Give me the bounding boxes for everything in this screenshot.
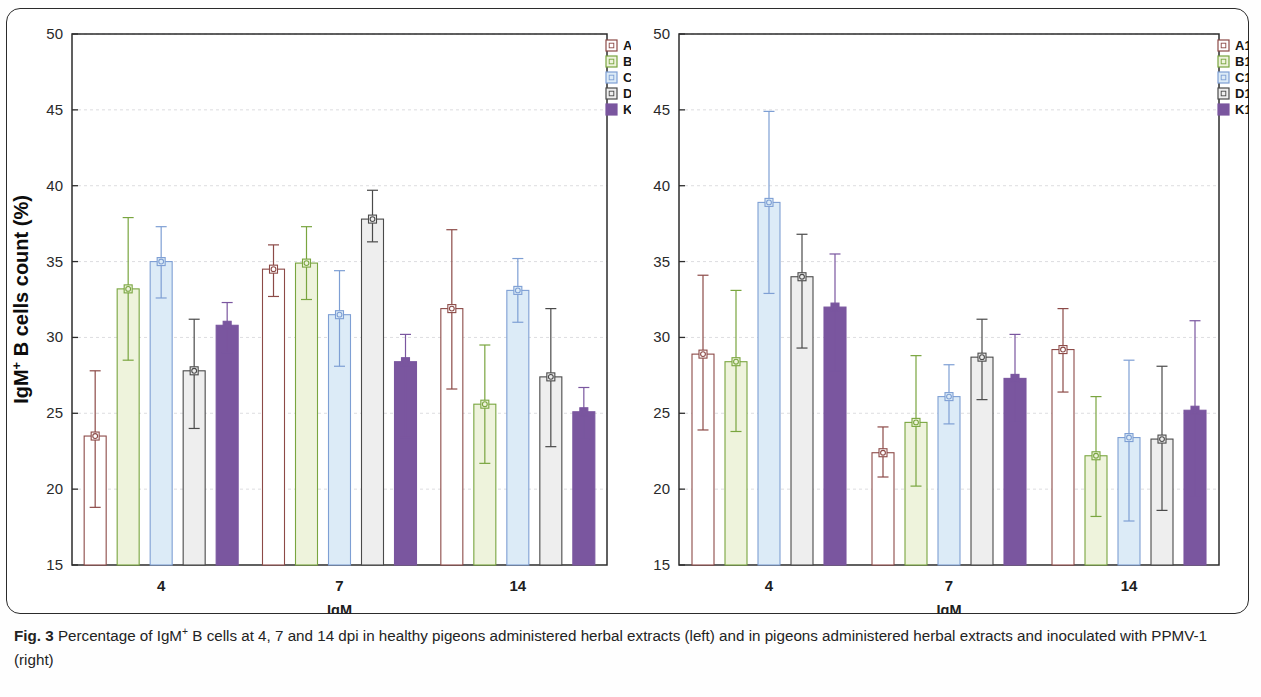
x-axis-title: IgM — [327, 602, 352, 614]
bar-A-7[interactable] — [263, 245, 285, 565]
bar-C1-7[interactable] — [938, 365, 960, 565]
legend-label: D1 — [1235, 86, 1249, 101]
mean-marker — [303, 259, 311, 267]
bar-D-4[interactable] — [183, 319, 205, 565]
legend-label: B — [623, 54, 631, 69]
bar-K-7[interactable] — [395, 334, 417, 565]
bar-B1-7[interactable] — [905, 356, 927, 565]
mean-marker — [699, 350, 707, 358]
legend-swatch — [606, 40, 617, 51]
mean-marker — [798, 273, 806, 281]
bar-A-4[interactable] — [84, 371, 106, 565]
bar-D-7[interactable] — [362, 190, 384, 565]
legend-label: C1 — [1235, 70, 1249, 85]
figure-caption: Fig. 3 Percentage of IgM+ B cells at 4, … — [14, 620, 1249, 672]
y-tick-label: 50 — [46, 25, 63, 42]
legend-label: A — [623, 38, 631, 53]
legend-swatch — [606, 72, 617, 83]
bar-A1-14[interactable] — [1052, 309, 1074, 565]
x-category-label: 7 — [335, 577, 343, 594]
y-tick-label: 20 — [46, 480, 63, 497]
chart-svg-left: 1520253035404550IgM+ B cells count (%)47… — [6, 8, 631, 614]
figure-label: Fig. 3 — [14, 627, 54, 644]
legend-item-K[interactable]: K — [606, 102, 631, 117]
bar-C1-14[interactable] — [1118, 360, 1140, 565]
legend-item-C[interactable]: C — [606, 70, 631, 85]
bar-A-14[interactable] — [441, 230, 463, 565]
mean-marker — [879, 449, 887, 457]
legend-item-D1[interactable]: D1 — [1218, 86, 1249, 101]
bar-C-14[interactable] — [507, 259, 529, 565]
bar-D1-14[interactable] — [1151, 366, 1173, 565]
chart-svg-right: 15202530354045504714IgMA1B1C1D1K1 — [631, 8, 1249, 614]
bar-rect[interactable] — [296, 263, 318, 565]
bar-group-14 — [441, 230, 595, 565]
bar-D1-4[interactable] — [791, 234, 813, 565]
legend: ABCDK — [606, 38, 631, 117]
bar-K1-7[interactable] — [1004, 334, 1026, 565]
y-tick-label: 15 — [653, 556, 670, 573]
bar-B-4[interactable] — [117, 218, 139, 565]
legend-label: K1 — [1235, 102, 1249, 117]
y-tick-label: 50 — [653, 25, 670, 42]
bar-A1-4[interactable] — [692, 275, 714, 565]
mean-marker — [945, 393, 953, 401]
mean-marker — [1059, 346, 1067, 354]
bar-B1-14[interactable] — [1085, 397, 1107, 565]
legend-item-K1[interactable]: K1 — [1218, 102, 1249, 117]
x-category-label: 14 — [1121, 577, 1138, 594]
legend-swatch — [1218, 72, 1229, 83]
bar-C-7[interactable] — [329, 271, 351, 565]
bar-D1-7[interactable] — [971, 319, 993, 565]
bar-C1-4[interactable] — [758, 111, 780, 565]
mean-marker — [732, 358, 740, 366]
bar-rect[interactable] — [216, 325, 238, 565]
bar-group-4 — [692, 111, 846, 565]
bar-K-14[interactable] — [573, 387, 595, 565]
chart-panel-right: 15202530354045504714IgMA1B1C1D1K1 — [631, 8, 1249, 614]
bar-rect[interactable] — [263, 269, 285, 565]
legend-label: D — [623, 86, 631, 101]
legend-swatch — [1218, 104, 1229, 115]
legend-item-A1[interactable]: A1 — [1218, 38, 1249, 53]
y-axis-title: IgM+ B cells count (%) — [9, 195, 33, 404]
bar-D-14[interactable] — [540, 309, 562, 565]
bar-B-14[interactable] — [474, 345, 496, 565]
legend-swatch — [1218, 56, 1229, 67]
y-axis: 1520253035404550 — [653, 25, 685, 573]
caption-text-part1: Percentage of IgM — [58, 627, 182, 644]
legend-item-B1[interactable]: B1 — [1218, 54, 1249, 69]
bar-B1-4[interactable] — [725, 290, 747, 565]
chart-panel-left: 1520253035404550IgM+ B cells count (%)47… — [6, 8, 631, 614]
mean-marker — [336, 311, 344, 319]
mean-marker — [124, 285, 132, 293]
bar-K1-14[interactable] — [1184, 321, 1206, 565]
bar-K1-4[interactable] — [824, 254, 846, 565]
mean-marker — [270, 265, 278, 273]
mean-marker — [547, 373, 555, 381]
bar-K-4[interactable] — [216, 303, 238, 565]
bar-rect[interactable] — [150, 262, 172, 565]
legend-item-A[interactable]: A — [606, 38, 631, 53]
mean-marker — [912, 418, 920, 426]
mean-marker — [580, 408, 588, 416]
bar-C-4[interactable] — [150, 227, 172, 565]
mean-marker — [481, 400, 489, 408]
bar-group-4 — [84, 218, 238, 565]
legend-swatch — [606, 104, 617, 115]
mean-marker — [978, 353, 986, 361]
chart-panels: 1520253035404550IgM+ B cells count (%)47… — [6, 8, 1249, 614]
bar-rect[interactable] — [507, 290, 529, 565]
legend-item-B[interactable]: B — [606, 54, 631, 69]
y-tick-label: 45 — [653, 101, 670, 118]
bar-A1-7[interactable] — [872, 427, 894, 565]
y-tick-label: 35 — [46, 253, 63, 270]
y-tick-label: 30 — [653, 328, 670, 345]
mean-marker — [1092, 452, 1100, 460]
mean-marker — [369, 215, 377, 223]
legend-swatch — [1218, 40, 1229, 51]
legend-item-C1[interactable]: C1 — [1218, 70, 1249, 85]
bar-rect[interactable] — [362, 219, 384, 565]
legend-item-D[interactable]: D — [606, 86, 631, 101]
bar-B-7[interactable] — [296, 227, 318, 565]
